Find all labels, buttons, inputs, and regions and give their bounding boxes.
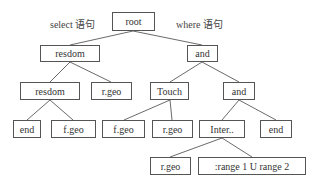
node-resdom: resdom xyxy=(40,45,100,62)
edge-resdom-rgeo xyxy=(70,62,111,82)
edge-and-and xyxy=(202,62,239,82)
edge-root-resdom xyxy=(70,31,133,45)
node-r-geo: r.geo xyxy=(91,82,132,100)
node-r-geo-inter: r.geo xyxy=(150,157,191,175)
node-resdom-child: resdom xyxy=(20,82,80,100)
node-end-and: end xyxy=(260,120,292,138)
edge-resdom-fgeo xyxy=(50,100,73,120)
edge-touch-fgeo xyxy=(124,100,170,120)
node-f-geo: f.geo xyxy=(51,120,96,138)
node-inter: Inter.. xyxy=(199,120,245,138)
node-f-geo-touch: f.geo xyxy=(102,120,145,138)
node-and: and xyxy=(187,45,218,62)
edge-resdom-resdom xyxy=(50,62,70,82)
node-touch: Touch xyxy=(150,82,189,100)
node-r-geo-touch: r.geo xyxy=(152,120,193,138)
edge-inter-range xyxy=(222,138,252,157)
node-and-child: and xyxy=(223,82,255,100)
where-clause-label: where 语句 xyxy=(176,16,223,31)
node-end: end xyxy=(13,120,41,138)
edge-and-end xyxy=(239,100,276,120)
edge-and-touch xyxy=(170,62,202,82)
select-clause-label: select 语句 xyxy=(50,16,95,31)
edge-resdom-end xyxy=(27,100,50,120)
node-range: :range 1 U range 2 xyxy=(198,157,306,175)
edge-touch-rgeo xyxy=(170,100,172,120)
edge-inter-rgeo xyxy=(170,138,222,157)
node-root: root xyxy=(112,12,155,31)
edge-root-and xyxy=(133,31,202,45)
edge-and-inter xyxy=(222,100,239,120)
